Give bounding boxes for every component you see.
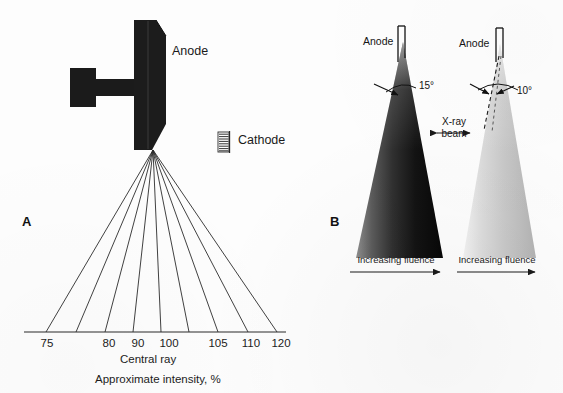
ray-2	[76, 150, 153, 332]
tick-label-90: 90	[127, 337, 149, 350]
tick-label-105: 105	[205, 337, 231, 350]
right-beam-cone-tip-fade	[463, 44, 536, 258]
panel-b-letter: B	[330, 215, 339, 229]
ray-8	[153, 150, 248, 332]
anode-bevel-edge	[156, 20, 166, 36]
xray-beam-label-line2: beam	[441, 128, 466, 139]
ray-5-central	[153, 150, 161, 332]
right-angle-arrow-left	[470, 84, 489, 94]
panel-b-right-fluence-label: Increasing fluence	[448, 255, 546, 265]
tick-label-110: 110	[238, 337, 264, 350]
xray-beam-label: X-ray beam	[438, 116, 470, 139]
panel-b-right-cone-group	[457, 28, 536, 272]
right-angle-arc	[478, 84, 518, 90]
anode-stem-end-block	[70, 68, 96, 107]
left-beam-cone-tip-fade	[356, 42, 443, 258]
panel-b-left-anode-label: Anode	[363, 36, 393, 48]
right-anode-axis-dashed	[484, 56, 499, 130]
right-angle-arrow-right	[497, 86, 514, 94]
panel-b-right-angle-label: 10°	[517, 85, 532, 96]
tick-label-75: 75	[36, 337, 58, 350]
cathode-filament-coil	[218, 131, 230, 153]
right-anode-axis-dashed-2	[492, 56, 501, 132]
figure-artwork	[0, 0, 563, 393]
figure-root: A Anode Cathode 75 80 90 100 105 110 120…	[0, 0, 563, 393]
ray-7	[153, 150, 218, 332]
left-angle-arc	[386, 85, 416, 92]
right-anode-needle	[496, 28, 503, 62]
panel-b-left-cone-group	[350, 26, 443, 272]
ray-9	[153, 150, 277, 332]
panel-b-right-anode-label: Anode	[459, 38, 489, 50]
panel-a-ray-fan	[46, 150, 277, 332]
tick-label-80: 80	[98, 337, 120, 350]
panel-a-cathode-label: Cathode	[238, 134, 285, 148]
ray-3	[105, 150, 153, 332]
panel-a-tube-assembly	[70, 20, 166, 150]
anode-disc	[134, 20, 166, 150]
panel-b-left-angle-label: 15°	[419, 80, 434, 91]
left-angle-arrow	[374, 84, 398, 95]
approximate-intensity-caption: Approximate intensity, %	[95, 373, 221, 386]
ray-6	[153, 150, 189, 332]
ray-1	[46, 150, 153, 332]
panel-b-left-fluence-label: Increasing fluence	[347, 255, 445, 265]
ray-4	[133, 150, 153, 332]
anode-stem	[96, 79, 137, 96]
left-anode-needle	[398, 26, 405, 62]
scan-grain-overlay	[0, 0, 563, 393]
xray-beam-label-line1: X-ray	[442, 116, 466, 127]
central-ray-caption: Central ray	[120, 353, 176, 366]
left-beam-cone	[356, 42, 443, 258]
tick-label-100: 100	[156, 337, 182, 350]
panel-a-anode-label: Anode	[172, 45, 208, 59]
panel-a-letter: A	[22, 215, 31, 229]
tick-label-120: 120	[268, 337, 294, 350]
right-beam-cone	[463, 44, 536, 258]
